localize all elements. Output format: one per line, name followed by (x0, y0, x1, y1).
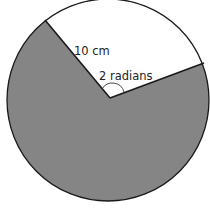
radius-label: 10 cm (74, 44, 110, 58)
circle-diagram: 10 cm 2 radians (0, 0, 210, 208)
angle-label: 2 radians (99, 69, 153, 83)
